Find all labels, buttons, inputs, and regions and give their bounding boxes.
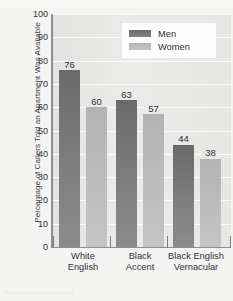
bar-men-white-english (59, 70, 80, 247)
gridline (53, 14, 231, 15)
y-tick-label: 50 (38, 126, 48, 136)
y-tick-label: 20 (38, 195, 48, 205)
y-tick-label: 40 (38, 149, 48, 159)
x-axis-separator (230, 236, 231, 248)
x-category-line2: English (68, 262, 99, 273)
x-axis-separator (167, 236, 168, 248)
x-axis-baseline (51, 247, 231, 248)
x-axis-separator (53, 236, 54, 248)
legend: Men Women (122, 23, 216, 58)
legend-label-women: Women (158, 42, 190, 52)
y-tick-label: 100 (33, 9, 48, 19)
y-tick-label: 30 (38, 172, 48, 182)
gridline (53, 61, 231, 62)
bar-value-label: 38 (205, 147, 216, 158)
bar-value-label: 63 (121, 89, 132, 100)
bar-women-white-english (86, 107, 107, 247)
bar-men-black-accent (116, 100, 137, 247)
bar-value-label: 76 (64, 59, 75, 70)
legend-swatch-men-icon (129, 30, 151, 37)
x-category-label-black-english-vernacular: Black English Vernacular (168, 251, 224, 273)
x-category-line2: Vernacular (168, 262, 224, 273)
y-tick-label: 80 (38, 56, 48, 66)
x-axis-separator (110, 236, 111, 248)
bar-value-label: 57 (148, 103, 159, 114)
y-tick-label: 0 (43, 242, 48, 252)
legend-item-women: Women (129, 40, 211, 53)
bar-women-black-accent (143, 114, 164, 247)
bar-value-label: 44 (178, 133, 189, 144)
y-tick-label: 60 (38, 102, 48, 112)
x-category-line2: Accent (126, 262, 154, 273)
y-tick-label: 70 (38, 79, 48, 89)
y-tick-label: 10 (38, 219, 48, 229)
y-tick-label: 90 (38, 32, 48, 42)
x-category-line1: White (68, 251, 99, 262)
legend-item-men: Men (129, 27, 211, 40)
x-category-label-white-english: White English (68, 251, 99, 273)
bar-chart-figure: Percentage of Callers Told an Apartment … (0, 0, 233, 301)
bar-men-black-vernacular (173, 145, 194, 248)
legend-label-men: Men (158, 29, 176, 39)
x-category-line1: Black English (168, 251, 224, 262)
page-bottom-artifact (4, 291, 74, 295)
x-category-line1: Black (126, 251, 154, 262)
legend-swatch-women-icon (129, 43, 151, 50)
bar-women-black-vernacular (200, 159, 221, 248)
bar-value-label: 60 (91, 96, 102, 107)
y-axis-tick-labels: 100 90 80 70 60 50 40 30 20 10 0 (22, 14, 48, 247)
x-category-label-black-accent: Black Accent (126, 251, 154, 273)
